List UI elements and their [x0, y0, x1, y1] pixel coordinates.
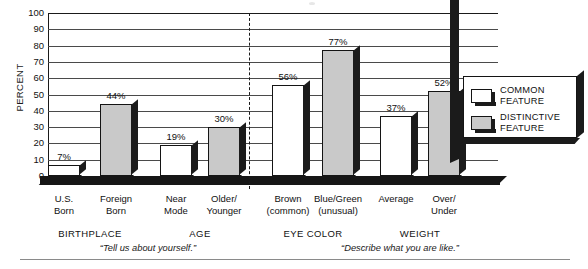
bar-value-label: 19% — [150, 131, 202, 142]
plot-right-wall-3d — [450, 0, 459, 163]
bar-side-3d — [191, 140, 198, 175]
bar-value-label: 37% — [370, 102, 422, 113]
bar-19pct — [160, 145, 192, 176]
y-axis-tick-40: 40 — [18, 106, 44, 116]
caption-left: “Tell us about yourself.” — [48, 243, 248, 253]
group-label-age: AGE — [140, 228, 260, 239]
group-label-birthplace: BIRTHPLACE — [30, 228, 150, 239]
bar-44pct — [100, 104, 132, 176]
legend-swatch-distinctive-feature — [471, 116, 492, 130]
bar-value-label: 7% — [38, 151, 90, 162]
group-label-weight: WEIGHT — [360, 228, 480, 239]
plot-base-3d — [39, 176, 507, 185]
bar-value-label: 30% — [198, 113, 250, 124]
y-axis-tick-100: 100 — [18, 8, 44, 18]
bar-37pct — [380, 116, 412, 176]
bar-side-3d — [303, 80, 310, 175]
bar-7pct — [48, 165, 80, 176]
y-axis-tick-80: 80 — [18, 41, 44, 51]
bar-value-label: 77% — [312, 36, 364, 47]
y-axis-tick-70: 70 — [18, 57, 44, 67]
legend-shadow-bottom — [461, 138, 580, 144]
bar-side-3d — [239, 122, 246, 175]
caption-right: “Describe what you are like.” — [285, 243, 515, 253]
legend-label-common-feature: COMMON FEATURE — [500, 85, 545, 106]
bar-side-3d — [131, 99, 138, 175]
bar-value-label: 56% — [262, 71, 314, 82]
legend-shadow-right — [577, 70, 584, 138]
question-group-divider — [249, 13, 250, 189]
category-label: Older/ Younger — [189, 193, 259, 216]
gridline-90 — [48, 29, 498, 30]
bar-56pct — [272, 85, 304, 176]
legend: COMMON FEATURE DISTINCTIVE FEATURE — [463, 76, 577, 138]
chart-figure: PERCENT 1009080706050403020100 7%44%19%3… — [0, 0, 588, 269]
bar-side-3d — [411, 111, 418, 175]
legend-item-distinctive-feature: DISTINCTIVE FEATURE — [471, 112, 560, 133]
plot-area: 7%44%19%30%56%77%37%52% — [48, 13, 498, 176]
y-axis-tick-60: 60 — [18, 73, 44, 83]
bar-77pct — [322, 50, 354, 176]
legend-item-common-feature: COMMON FEATURE — [471, 85, 545, 106]
group-label-eye-color: EYE COLOR — [253, 228, 373, 239]
y-axis-tick-50: 50 — [18, 90, 44, 100]
y-axis-tick-20: 20 — [18, 138, 44, 148]
category-label: Over/ Under — [409, 193, 479, 216]
bottom-rule — [20, 259, 570, 260]
bar-30pct — [208, 127, 240, 176]
legend-label-distinctive-feature: DISTINCTIVE FEATURE — [500, 112, 560, 133]
y-axis-tick-90: 90 — [18, 24, 44, 34]
scan-artifact-speck — [309, 2, 315, 5]
gridline-80 — [48, 46, 498, 47]
bar-value-label: 44% — [90, 90, 142, 101]
legend-swatch-common-feature — [471, 89, 492, 103]
y-axis-tick-30: 30 — [18, 122, 44, 132]
bar-side-3d — [353, 46, 360, 175]
gridline-70 — [48, 62, 498, 63]
